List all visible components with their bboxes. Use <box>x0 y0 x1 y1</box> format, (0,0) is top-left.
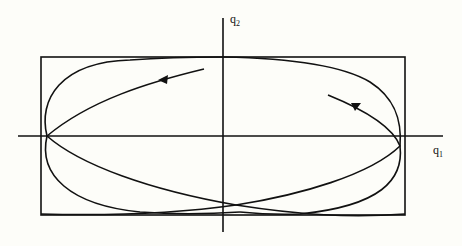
q2-axis-label: q2 <box>230 12 240 28</box>
trajectory-branch-left <box>47 69 405 216</box>
trajectory-arc-top-left <box>45 57 223 136</box>
q1-axis-label: q1 <box>433 143 443 159</box>
trajectory-arc-bottom-left <box>46 136 240 214</box>
trajectory-arc-bottom-right <box>240 146 400 214</box>
trajectory-diagram <box>0 0 462 246</box>
arrow-left-icon <box>158 75 168 84</box>
figure: q2 q1 <box>0 0 462 246</box>
trajectory-arc-top-right <box>223 57 400 146</box>
trajectory-branch-right <box>41 95 400 215</box>
